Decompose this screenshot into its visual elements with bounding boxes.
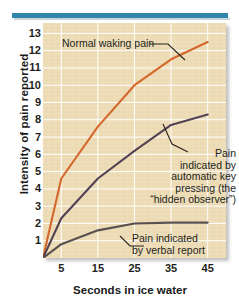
annotation-line: Pain bbox=[140, 148, 236, 160]
annotation-verbal-report: Pain indicatedby verbal report bbox=[132, 233, 236, 256]
x-axis-tick-labels: 515253545 bbox=[43, 262, 226, 276]
x-tick-label-35: 35 bbox=[158, 262, 184, 274]
chart-figure: 12345678910111213 515253545 Intensity of… bbox=[0, 0, 239, 306]
x-tick-label-15: 15 bbox=[85, 262, 111, 274]
y-tick-label-1: 1 bbox=[19, 235, 41, 246]
annotation-line: “hidden observer”) bbox=[140, 194, 236, 206]
x-tick-label-45: 45 bbox=[195, 262, 221, 274]
annotation-line: by verbal report bbox=[132, 245, 236, 257]
annotation-line: automatic key bbox=[140, 171, 236, 183]
annotation-hidden-observer: Painindicated byautomatic keypressing (t… bbox=[140, 148, 236, 206]
y-tick-label-2: 2 bbox=[19, 218, 41, 229]
x-tick-label-5: 5 bbox=[48, 262, 74, 274]
annotation-line: Pain indicated bbox=[132, 233, 236, 245]
y-tick-label-13: 13 bbox=[19, 28, 41, 39]
y-axis-title: Intensity of pain reported bbox=[18, 44, 30, 204]
x-axis-title: Seconds in ice water bbox=[30, 284, 230, 296]
x-tick-label-25: 25 bbox=[122, 262, 148, 274]
annotation-normal-waking-pain: Normal waking pain bbox=[62, 38, 172, 50]
